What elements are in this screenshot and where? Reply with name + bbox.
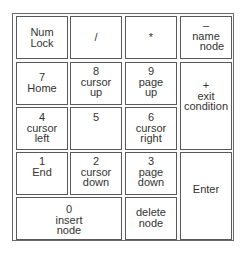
- key-label: 3: [148, 156, 154, 167]
- key-label: Enter: [193, 184, 219, 195]
- key-divide[interactable]: /: [70, 16, 122, 59]
- key-label: node: [139, 218, 163, 229]
- key-label: down: [83, 177, 109, 188]
- key-0-insert-node[interactable]: 0 insert node: [16, 197, 122, 240]
- key-label: left: [35, 133, 50, 144]
- key-label: 6: [148, 112, 154, 123]
- key-label: /: [94, 32, 97, 43]
- key-label: 0: [66, 204, 72, 215]
- key-label: Home: [27, 83, 56, 94]
- key-label: condition: [184, 101, 228, 112]
- key-label: 5: [93, 112, 99, 123]
- key-num-lock[interactable]: Num Lock: [16, 16, 68, 59]
- key-minus-name-node[interactable]: – name node: [180, 16, 232, 59]
- key-label: End: [32, 167, 52, 178]
- key-label: up: [90, 87, 102, 98]
- key-8-cursor-up[interactable]: 8 cursor up: [70, 62, 122, 105]
- key-label: 1: [39, 156, 45, 167]
- key-decimal-delete-node[interactable]: delete node: [125, 197, 177, 240]
- key-5[interactable]: 5: [70, 107, 122, 150]
- key-plus-exit-condition[interactable]: + exit condition: [180, 62, 232, 150]
- key-label: Lock: [30, 38, 53, 49]
- key-label: 2: [93, 156, 99, 167]
- key-6-cursor-right[interactable]: 6 cursor right: [125, 107, 177, 150]
- key-label: delete: [136, 207, 166, 218]
- key-multiply[interactable]: *: [125, 16, 177, 59]
- key-7-home[interactable]: 7 Home: [16, 62, 68, 105]
- key-label: right: [140, 133, 161, 144]
- key-label: –: [203, 20, 209, 31]
- key-label: node: [188, 41, 224, 52]
- key-label: up: [145, 87, 157, 98]
- key-3-page-down[interactable]: 3 page down: [125, 152, 177, 195]
- key-label: down: [138, 177, 164, 188]
- key-label: 8: [93, 66, 99, 77]
- key-label: 9: [148, 66, 154, 77]
- key-label: *: [149, 32, 153, 43]
- key-4-cursor-left[interactable]: 4 cursor left: [16, 107, 68, 150]
- key-enter[interactable]: Enter: [180, 152, 232, 240]
- key-1-end[interactable]: 1 End: [16, 152, 68, 195]
- key-label: 4: [39, 112, 45, 123]
- key-label: node: [57, 225, 81, 236]
- key-label: Num: [30, 27, 53, 38]
- key-9-page-up[interactable]: 9 page up: [125, 62, 177, 105]
- key-label: 7: [39, 72, 45, 83]
- key-2-cursor-down[interactable]: 2 cursor down: [70, 152, 122, 195]
